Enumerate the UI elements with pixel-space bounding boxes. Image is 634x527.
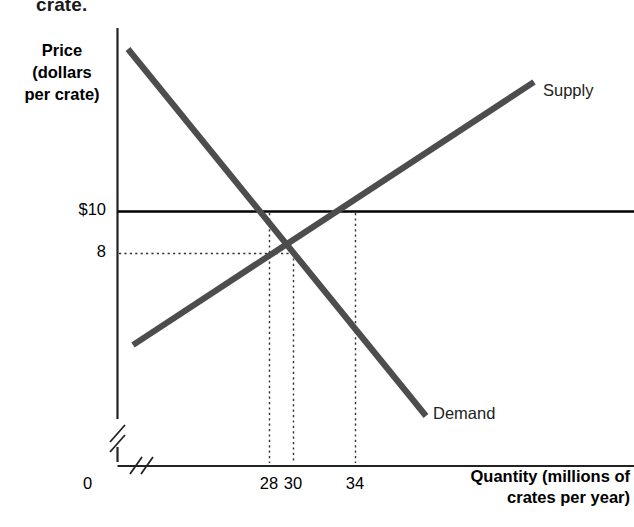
- y-axis-break-slash-upper: [110, 425, 125, 442]
- supply-demand-chart: crate. Price (dollars per crate) Quantit…: [0, 0, 634, 527]
- demand-curve-label: Demand: [433, 404, 495, 423]
- clipped-caption-text: crate.: [36, 0, 87, 16]
- y-axis-title: Price (dollars per crate): [14, 40, 110, 105]
- supply-curve-label: Supply: [543, 81, 593, 100]
- x-tick-label-34: 34: [335, 474, 375, 493]
- x-axis-title: Quantity (millions of crates per year): [398, 466, 630, 508]
- y-tick-label-8: 8: [38, 242, 106, 261]
- y-tick-label-10: $10: [38, 200, 106, 219]
- origin-label: 0: [83, 474, 92, 493]
- demand-curve: [128, 49, 426, 416]
- x-tick-label-30: 30: [273, 474, 313, 493]
